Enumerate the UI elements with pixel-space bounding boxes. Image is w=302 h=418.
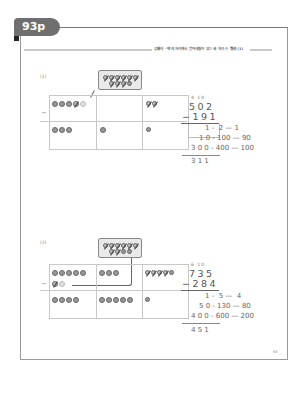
coin-icon <box>66 297 72 303</box>
coin-icon <box>106 270 112 276</box>
subtrahend-with-operator: −191 <box>182 111 218 122</box>
header-rule-left <box>24 49 152 51</box>
table-divider <box>40 121 187 122</box>
minus-sign: − <box>41 109 47 117</box>
coin-icon <box>80 101 86 107</box>
coin-icon <box>133 75 138 80</box>
hundreds-top-coins <box>52 270 86 276</box>
expansion-row-3: 4 0 0 - 600 — 200 <box>191 312 254 320</box>
coin-icon <box>145 297 150 302</box>
answer: 4 5 1 <box>191 326 209 334</box>
coin-icon <box>103 75 108 80</box>
coin-icon <box>121 75 126 80</box>
coin-icon <box>66 127 72 133</box>
coin-icon <box>157 270 162 275</box>
operator: − <box>182 278 192 289</box>
coin-icon <box>99 297 105 303</box>
coin-icon <box>59 270 65 276</box>
page-tab: 93p <box>14 18 60 36</box>
minus-sign: − <box>41 280 47 288</box>
coin-icon <box>133 243 138 248</box>
coin-icon <box>103 243 108 248</box>
header-title: 공통자 · 백의 자리에서 받아내림이 있는 세 자리 수 뺄셈 (1) <box>154 45 250 53</box>
hundreds-bottom-coins <box>52 297 79 303</box>
ones-bottom-coins <box>146 127 151 132</box>
coin-icon <box>59 281 65 287</box>
coin-icon <box>145 270 150 275</box>
tens-bottom-coins <box>99 297 133 303</box>
subtrahend: 191 <box>192 111 218 122</box>
coin-icon <box>59 101 65 107</box>
expansion-row-2: 5 0 - 130 — 80 <box>199 302 251 310</box>
problem-label: (2) <box>40 240 46 245</box>
coin-icon <box>100 127 106 133</box>
coin-icon <box>52 281 58 287</box>
hundreds-bottom-coins <box>52 127 72 133</box>
coin-icon <box>121 81 126 86</box>
coin-icon <box>52 270 58 276</box>
coin-icon <box>127 75 132 80</box>
tab-corner-marker <box>14 36 19 41</box>
table-divider <box>142 95 143 150</box>
hundreds-top-coins <box>52 101 86 107</box>
subtrahend-with-operator: −284 <box>182 278 218 289</box>
coin-icon <box>115 249 120 254</box>
coin-icon <box>59 127 65 133</box>
table-divider <box>96 95 97 150</box>
expansion-row-2: 1 0 - 100 — 90 <box>199 134 251 142</box>
coin-icon <box>52 297 58 303</box>
coin-icon <box>73 101 79 107</box>
coin-icon <box>146 101 151 106</box>
coin-icon <box>99 270 105 276</box>
expansion-row-1: 1 - 5 — 4 <box>205 292 241 300</box>
coin-icon <box>109 249 114 254</box>
regroup-coins-box <box>98 238 142 258</box>
subtrahend: 284 <box>192 278 218 289</box>
coin-icon <box>73 297 79 303</box>
coin-icon <box>115 243 120 248</box>
coin-icon <box>52 127 58 133</box>
tens-top-coins <box>99 270 119 276</box>
table-divider <box>142 264 143 319</box>
expansion-row-1: 1 - 2 — 1 <box>205 124 239 132</box>
page-number: 93 <box>273 350 277 354</box>
sum-rule <box>181 290 219 291</box>
ones-top-coins <box>145 270 174 275</box>
coin-icon <box>106 297 112 303</box>
answer-rule <box>182 155 220 156</box>
ones-top-coins <box>146 101 157 106</box>
coin-icon <box>66 270 72 276</box>
answer: 3 1 1 <box>191 157 209 165</box>
coin-icon <box>59 297 65 303</box>
coin-icon <box>120 297 126 303</box>
coin-icon <box>127 297 133 303</box>
coin-icon <box>66 101 72 107</box>
coin-icon <box>115 81 120 86</box>
coin-icon <box>113 297 119 303</box>
coin-icon <box>121 243 126 248</box>
operator: − <box>182 111 192 122</box>
tens-bottom-coins <box>100 127 106 133</box>
coin-icon <box>115 75 120 80</box>
coin-icon <box>52 101 58 107</box>
coin-icon <box>163 270 168 275</box>
coin-icon <box>109 243 114 248</box>
answer-rule <box>182 323 220 324</box>
coin-icon <box>73 270 79 276</box>
regroup-coins-box <box>98 70 142 90</box>
table-divider <box>40 290 187 291</box>
problem-label: (1) <box>40 74 46 79</box>
coin-icon <box>109 81 114 86</box>
carry-marks: 4 10 <box>191 95 205 100</box>
coin-icon <box>127 243 132 248</box>
coin-icon <box>151 270 156 275</box>
hundreds-top-coins-2 <box>52 281 65 287</box>
table-divider <box>96 264 97 319</box>
ones-bottom-coins <box>145 297 150 302</box>
coin-icon <box>113 270 119 276</box>
expansion-row-3: 3 0 0 - 400 — 100 <box>191 144 254 152</box>
coin-icon <box>146 127 151 132</box>
coin-icon <box>109 75 114 80</box>
coin-icon <box>80 270 86 276</box>
coin-icon <box>152 101 157 106</box>
